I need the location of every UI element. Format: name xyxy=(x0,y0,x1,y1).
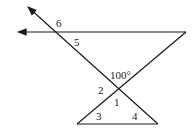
angle-5-label: 5 xyxy=(74,36,80,48)
geometry-diagram: 6 5 100° 2 1 3 4 xyxy=(0,0,195,132)
angle-4-label: 4 xyxy=(132,110,138,122)
angle-6-label: 6 xyxy=(56,17,62,29)
diagonal-ray xyxy=(28,7,158,124)
angle-100-label: 100° xyxy=(110,69,131,81)
angle-3-label: 3 xyxy=(96,110,102,122)
angle-1-label: 1 xyxy=(114,96,120,108)
angle-2-label: 2 xyxy=(98,84,104,96)
